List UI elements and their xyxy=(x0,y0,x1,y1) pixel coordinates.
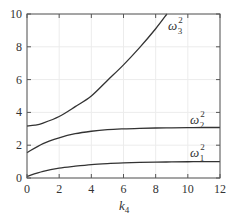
y-tick-labels: 0246810 xyxy=(10,7,22,185)
y-tick-label: 6 xyxy=(16,73,22,87)
series-label-omega1: ω21 xyxy=(190,142,205,163)
x-tick-label: 0 xyxy=(24,182,30,196)
curve-omega3-squared xyxy=(27,14,167,126)
x-tick-label: 10 xyxy=(182,182,194,196)
series-label-omega3: ω23 xyxy=(168,15,183,36)
x-tick-label: 6 xyxy=(121,182,127,196)
y-tick-label: 8 xyxy=(16,40,22,54)
x-tick-label: 12 xyxy=(214,182,226,196)
series-labels: ω21ω22ω23 xyxy=(168,15,205,163)
y-tick-label: 4 xyxy=(16,105,22,119)
y-tick-label: 10 xyxy=(10,7,22,21)
x-tick-label: 8 xyxy=(153,182,159,196)
x-tick-label: 4 xyxy=(88,182,94,196)
x-tick-label: 2 xyxy=(56,182,62,196)
y-tick-label: 0 xyxy=(16,171,22,185)
x-axis-label: k4 xyxy=(119,198,130,215)
y-tick-label: 2 xyxy=(16,138,22,152)
series-label-omega2: ω22 xyxy=(190,109,205,130)
x-tick-labels: 024681012 xyxy=(24,182,226,196)
line-chart: 024681012 0246810 k4 ω21ω22ω23 xyxy=(0,0,235,216)
